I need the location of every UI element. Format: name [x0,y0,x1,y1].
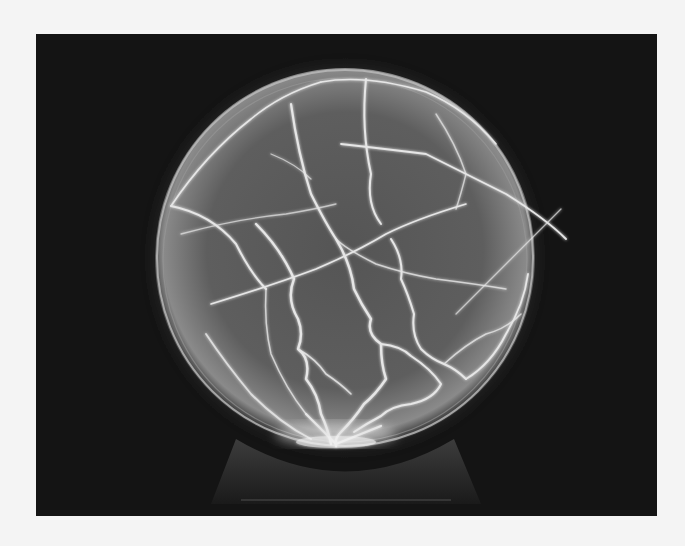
plasma-ball-illustration [36,34,657,516]
plasma-ball-photo [36,34,657,516]
filament-contact-glow [296,436,376,448]
